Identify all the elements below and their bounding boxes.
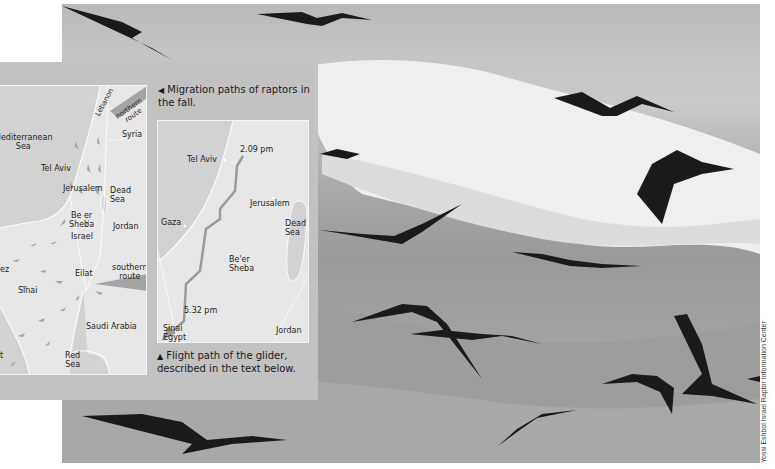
label-beer-sheba: Be er Sheba — [69, 211, 94, 229]
glider-caption: ▲ Flight path of the glider, described i… — [157, 350, 317, 375]
label-dead-sea: Dead Sea — [285, 219, 306, 237]
triangle-left-icon: ◀ — [158, 86, 164, 95]
migration-map: Lebanon northern route Syria Mediterrane… — [0, 85, 147, 375]
label-eilat: Eilat — [75, 269, 93, 278]
label-southern-route: southern route — [112, 263, 147, 281]
label-jordan: Jordan — [276, 326, 301, 335]
label-sinai: Sinai — [18, 286, 38, 295]
label-jerusalem: Jerusalem — [63, 184, 103, 193]
label-partial: t — [0, 351, 3, 360]
migration-caption: ◀ Migration paths of raptors in the fall… — [158, 84, 318, 109]
label-dead-sea: Dead Sea — [110, 186, 131, 204]
label-mediterranean-sea: Mediterranean Sea — [0, 133, 53, 151]
label-israel: Israel — [71, 232, 93, 241]
label-tel-aviv: Tel Aviv — [41, 164, 71, 173]
photo-credit: Yossi Eshbol Israel Raptor Information C… — [760, 323, 767, 463]
label-syria: Syria — [122, 130, 142, 139]
label-gaza: Gaza — [161, 218, 181, 227]
label-jerusalem: Jerusalem — [250, 199, 290, 208]
label-jordan: Jordan — [113, 222, 138, 231]
label-suez: ez — [0, 265, 9, 274]
label-red-sea: Red Sea — [65, 351, 80, 369]
label-start-time: 2.09 pm — [240, 145, 273, 154]
info-panel: Lebanon northern route Syria Mediterrane… — [0, 62, 318, 400]
glider-map: 2.09 pm Tel Aviv Jerusalem Gaza Dead Sea… — [157, 120, 309, 343]
label-end-time: 5.32 pm — [184, 306, 217, 315]
label-beer-sheba: Be'er Sheba — [229, 255, 254, 273]
label-tel-aviv: Tel Aviv — [187, 155, 217, 164]
label-sinai-egypt: Sinai Egypt — [163, 324, 186, 342]
label-saudi-arabia: Saudi Arabia — [86, 322, 137, 331]
triangle-up-icon: ▲ — [157, 352, 163, 361]
